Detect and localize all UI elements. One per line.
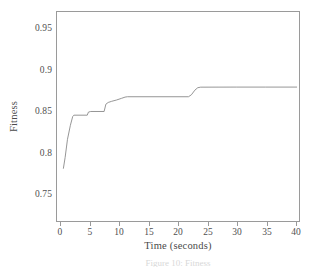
x-tick-mark (208, 222, 209, 226)
x-tick-mark (267, 222, 268, 226)
x-tick-mark (119, 222, 120, 226)
y-tick-label: 0.75 (35, 189, 52, 199)
x-tick-mark (296, 222, 297, 226)
y-axis-title: Fitness (6, 0, 22, 233)
x-tick-mark (237, 222, 238, 226)
plot-area (56, 11, 300, 222)
x-axis-title: Time (seconds) (56, 240, 300, 251)
x-tick-label: 25 (203, 227, 213, 238)
y-tick-label: 0.9 (40, 65, 52, 75)
fitness-line-series (57, 12, 299, 221)
x-tick-label: 15 (144, 227, 154, 238)
y-tick-label: 0.8 (40, 148, 52, 158)
x-tick-label: 10 (114, 227, 124, 238)
figure-caption: Figure 10: Fitness (56, 258, 300, 267)
x-tick-label: 30 (232, 227, 242, 238)
x-tick-label: 20 (173, 227, 183, 238)
y-tick-label: 0.95 (35, 23, 52, 33)
x-tick-label: 40 (291, 227, 301, 238)
x-tick-label: 0 (58, 227, 63, 238)
x-tick-mark (149, 222, 150, 226)
x-tick-mark (60, 222, 61, 226)
y-axis-title-text: Fitness (9, 101, 20, 132)
x-axis-tick-labels: 0 5 10 15 20 25 30 35 40 (0, 227, 322, 241)
x-tick-label: 35 (262, 227, 272, 238)
y-tick-label: 0.85 (35, 106, 52, 116)
figure-fitness-vs-time: 0.95 0.9 0.85 0.8 0.75 0 5 10 15 20 25 3… (0, 0, 322, 270)
x-tick-mark (178, 222, 179, 226)
x-tick-label: 5 (88, 227, 93, 238)
x-tick-mark (90, 222, 91, 226)
